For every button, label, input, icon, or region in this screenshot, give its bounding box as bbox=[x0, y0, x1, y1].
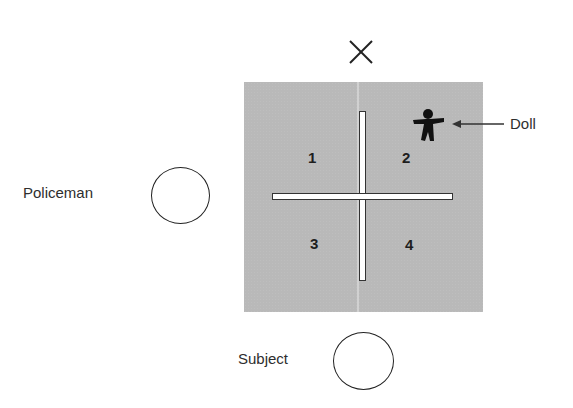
subject-label: Subject bbox=[238, 350, 288, 367]
quadrant-2-label: 2 bbox=[402, 149, 410, 166]
doll-label: Doll bbox=[510, 115, 536, 132]
quadrant-3-label: 3 bbox=[310, 235, 318, 252]
policeman-label: Policeman bbox=[23, 184, 93, 201]
policeman-circle-icon bbox=[151, 167, 210, 224]
quadrant-1-label: 1 bbox=[308, 149, 316, 166]
wall-intersection bbox=[360, 194, 365, 199]
doll-pointer-arrow-icon bbox=[452, 118, 504, 130]
subject-circle-icon bbox=[333, 332, 394, 390]
x-mark-icon bbox=[348, 39, 374, 65]
quadrant-4-label: 4 bbox=[405, 236, 413, 253]
doll-figure-icon bbox=[411, 108, 447, 144]
